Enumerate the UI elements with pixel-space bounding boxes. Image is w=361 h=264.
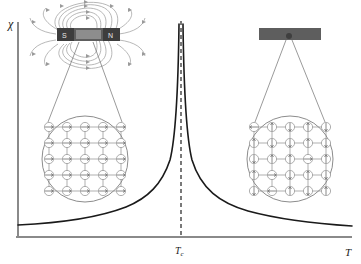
x-axis-label: T [345,246,352,258]
susceptibility-vs-temperature-figure: χ T Tc [0,0,361,264]
magnet-middle-band [76,30,101,39]
bar-magnet-ordered: S N [57,28,120,41]
magnet-center-mark [286,33,292,39]
y-axis-label: χ [7,17,14,31]
north-pole-label: N [108,32,113,39]
bar-magnet-demagnetized [259,28,321,40]
south-pole-label: S [62,32,67,39]
